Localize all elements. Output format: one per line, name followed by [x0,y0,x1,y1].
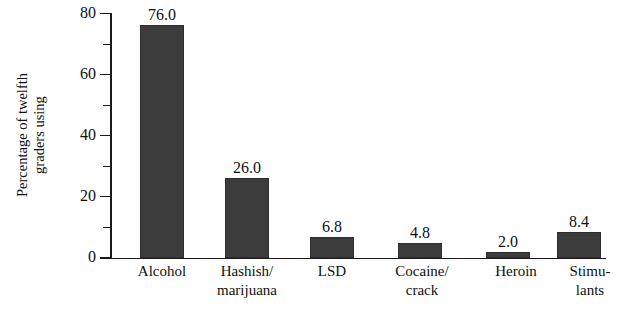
bar-group-stimulants[interactable]: 8.4 [557,13,601,258]
x-label-alcohol-line-1: Alcohol [120,262,204,281]
y-axis-label-line-1: Percentage of twelfth [14,73,31,197]
x-label-heroin: Heroin [476,262,556,281]
x-label-heroin-line-1: Heroin [476,262,556,281]
bar-stimulants[interactable] [557,232,601,258]
y-tick-label-60: 60 [58,66,96,82]
bar-value-stimulants: 8.4 [569,213,589,230]
x-label-cocaine-crack-line-2: crack [368,281,476,300]
bar-value-cocaine-crack: 4.8 [410,224,430,241]
bar-chart: Percentage of twelfth graders using 80 6… [0,0,621,311]
bar-group-cocaine-crack[interactable]: 4.8 [398,13,442,258]
bar-group-hashish-marijuana[interactable]: 26.0 [225,13,269,258]
bar-heroin[interactable] [486,252,530,258]
plot-area: 76.0 26.0 6.8 4.8 2.0 8.4 [110,13,606,258]
y-tick-label-20: 20 [58,188,96,204]
y-axis-label-line-2: graders using [31,96,48,174]
bar-value-alcohol: 76.0 [148,6,176,23]
y-tick-major-80 [100,13,111,15]
bar-alcohol[interactable] [140,25,184,258]
bar-group-alcohol[interactable]: 76.0 [140,13,184,258]
x-label-cocaine-crack-line-1: Cocaine/ [368,262,476,281]
x-label-stimulants-line-1: Stimu- [548,262,621,281]
x-label-hashish-marijuana-line-2: marijuana [198,281,296,300]
x-label-lsd: LSD [296,262,368,281]
x-label-hashish-marijuana: Hashish/ marijuana [198,262,296,300]
x-label-alcohol: Alcohol [120,262,204,281]
bar-value-hashish-marijuana: 26.0 [233,159,261,176]
y-tick-major-40 [100,135,111,137]
bar-group-lsd[interactable]: 6.8 [310,13,354,258]
y-tick-label-80: 80 [58,5,96,21]
bar-value-heroin: 2.0 [498,233,518,250]
x-label-lsd-line-1: LSD [296,262,368,281]
y-tick-label-0: 0 [58,249,96,265]
bar-hashish-marijuana[interactable] [225,178,269,258]
x-label-hashish-marijuana-line-1: Hashish/ [198,262,296,281]
y-tick-major-60 [100,74,111,76]
x-label-stimulants-line-2: lants [548,281,621,300]
bar-lsd[interactable] [310,237,354,258]
y-tick-major-0 [100,257,111,259]
x-label-stimulants: Stimu- lants [548,262,621,300]
x-label-cocaine-crack: Cocaine/ crack [368,262,476,300]
bar-value-lsd: 6.8 [322,218,342,235]
bar-group-heroin[interactable]: 2.0 [486,13,530,258]
bar-cocaine-crack[interactable] [398,243,442,258]
y-tick-label-40: 40 [58,127,96,143]
y-axis-tick-labels: 80 60 40 20 0 [52,0,96,270]
x-axis-tick-labels: Alcohol Hashish/ marijuana LSD Cocaine/ … [110,262,606,311]
y-axis-label: Percentage of twelfth graders using [0,0,46,270]
y-tick-major-20 [100,196,111,198]
